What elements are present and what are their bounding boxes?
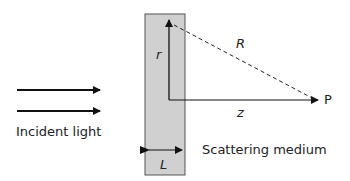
scattering-slab [145,14,185,175]
incident-light-label: Incident light [16,124,101,139]
P-label: P [324,92,332,107]
R-label: R [236,36,245,51]
L-label: L [160,157,167,172]
z-label: z [237,105,244,120]
scattering-medium-label: Scattering medium [202,142,327,157]
r-label: r [156,47,161,62]
